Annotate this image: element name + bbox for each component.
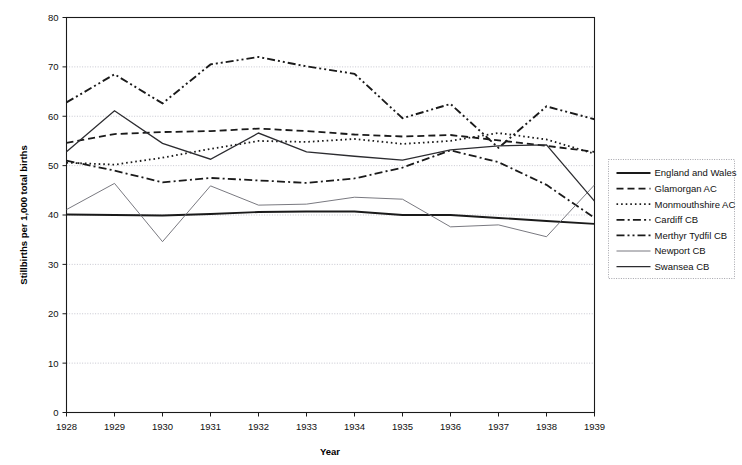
legend-label-england-and-wales: England and Wales <box>655 167 737 178</box>
y-axis-title: Stillbirths per 1,000 total births <box>18 145 29 284</box>
series-line-england-and-wales <box>67 212 595 224</box>
x-tick-label: 1929 <box>104 421 125 432</box>
y-tick-label: 80 <box>48 12 59 23</box>
chart-canvas: 01020304050607080 1928192919301931193219… <box>0 0 742 465</box>
legend-label-glamorgan-ac: Glamorgan AC <box>655 183 717 194</box>
y-tick-label: 0 <box>53 407 58 418</box>
y-tick-label: 70 <box>48 61 59 72</box>
x-tick-label: 1933 <box>296 421 317 432</box>
series-line-swansea-cb <box>67 111 595 201</box>
x-tick-label: 1934 <box>344 421 365 432</box>
x-tick-label: 1939 <box>584 421 605 432</box>
x-tick-label: 1930 <box>152 421 173 432</box>
y-axis-tick-labels-group: 01020304050607080 <box>48 12 59 418</box>
x-tick-label: 1931 <box>200 421 221 432</box>
legend-label-cardiff-cb: Cardiff CB <box>655 214 699 225</box>
series-line-monmouthshire-ac <box>67 133 595 165</box>
series-line-newport-cb <box>67 183 595 241</box>
x-tick-label: 1932 <box>248 421 269 432</box>
x-tick-label: 1937 <box>488 421 509 432</box>
x-tick-label: 1936 <box>440 421 461 432</box>
x-tick-label: 1928 <box>56 421 77 432</box>
y-tick-label: 40 <box>48 209 59 220</box>
x-tick-label: 1935 <box>392 421 413 432</box>
legend: England and WalesGlamorgan ACMonmouthshi… <box>609 160 737 279</box>
x-axis-tick-labels-group: 1928192919301931193219331934193519361937… <box>56 421 605 432</box>
legend-label-swansea-cb: Swansea CB <box>655 261 710 272</box>
x-axis-title: Year <box>320 446 340 457</box>
stillbirths-line-chart: 01020304050607080 1928192919301931193219… <box>0 0 742 465</box>
y-tick-label: 50 <box>48 160 59 171</box>
x-axis-ticks-group <box>67 413 595 417</box>
x-tick-label: 1938 <box>536 421 557 432</box>
y-tick-label: 60 <box>48 111 59 122</box>
y-tick-label: 10 <box>48 358 59 369</box>
y-axis-ticks-group <box>63 18 67 413</box>
legend-label-merthyr-tydfil-cb: Merthyr Tydfil CB <box>655 230 728 241</box>
legend-label-monmouthshire-ac: Monmouthshire AC <box>655 199 736 210</box>
series-lines-group <box>67 57 595 242</box>
legend-label-newport-cb: Newport CB <box>655 245 706 256</box>
series-line-merthyr-tydfil-cb <box>67 57 595 148</box>
y-tick-label: 30 <box>48 259 59 270</box>
y-tick-label: 20 <box>48 308 59 319</box>
